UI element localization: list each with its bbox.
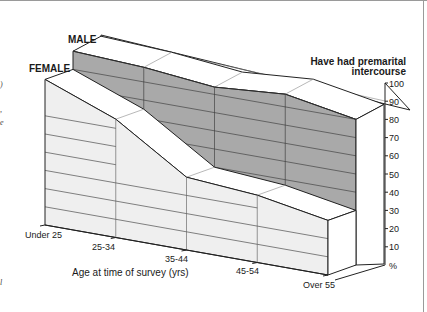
x-tick-label: Over 55	[303, 280, 335, 290]
y-tick-label: 10	[389, 242, 399, 252]
male-end-cap	[356, 104, 384, 265]
margin-text-fragment: l	[0, 278, 2, 287]
chart-title-line2: intercourse	[352, 66, 407, 77]
x-tick-label: 25-34	[92, 242, 115, 252]
y-tick-label: 100	[389, 79, 404, 89]
margin-text-fragment: e	[0, 118, 4, 127]
series-label-female: FEMALE	[29, 63, 70, 74]
y-axis-tick-labels: 100908070605040302010	[389, 79, 404, 253]
y-tick-label: 90	[389, 97, 399, 107]
y-tick-label: 20	[389, 224, 399, 234]
margin-text-fragment: )	[0, 80, 3, 89]
x-tick	[182, 250, 187, 251]
premarital-intercourse-chart: MALE FEMALE Have had premarital intercou…	[0, 0, 427, 312]
x-tick-label: Under 25	[25, 230, 62, 240]
x-tick-label: 35-44	[165, 254, 188, 264]
x-tick	[111, 238, 116, 239]
y-tick-label: 60	[389, 151, 399, 161]
y-tick-label: 40	[389, 188, 399, 198]
y-axis-unit-label: %	[389, 261, 397, 271]
y-tick-label: 50	[389, 170, 399, 180]
margin-text-fragment: ,	[0, 105, 2, 114]
female-end-cap	[328, 210, 356, 275]
y-tick-label: 80	[389, 115, 399, 125]
x-tick	[40, 225, 45, 226]
x-tick-label: 45-54	[236, 266, 259, 276]
x-axis-title: Age at time of survey (yrs)	[72, 267, 189, 278]
x-tick	[323, 275, 328, 276]
y-tick-label: 30	[389, 206, 399, 216]
y-tick-label: 70	[389, 133, 399, 143]
series-label-male: MALE	[68, 34, 97, 45]
x-tick	[252, 263, 257, 264]
